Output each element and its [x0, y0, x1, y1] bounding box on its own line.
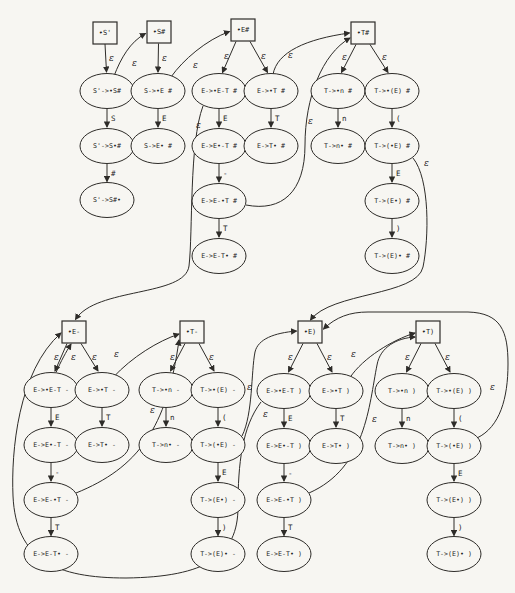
- station-node-st_ep: •E): [298, 321, 322, 343]
- item-label: E->•E-T #: [201, 87, 237, 95]
- item-label: T->n• -: [152, 441, 180, 449]
- epsilon-edge-label: ε: [109, 53, 114, 63]
- edge-i7-st_th: [273, 33, 350, 75]
- epsilon-edge-label: ε: [405, 352, 410, 362]
- item-node-p17: T->(E)• ): [427, 537, 481, 572]
- station-node-st_em: •E-: [62, 321, 86, 343]
- station-label: •S#: [153, 28, 166, 36]
- item-label: T->(•E) ): [436, 442, 472, 450]
- station-node-st_sp: •S': [93, 22, 117, 44]
- symbol-edge-label: T: [340, 414, 345, 423]
- station-label: •T): [422, 328, 435, 336]
- item-node-i2: S'->S•#: [80, 129, 134, 164]
- item-label: S->•E #: [144, 87, 172, 95]
- item-node-m12: T->•n -: [139, 373, 193, 408]
- item-label: E->E•-T ): [266, 442, 302, 450]
- symbol-edge-label: T: [275, 114, 280, 123]
- epsilon-edge-label: ε: [327, 352, 332, 362]
- item-label: E->•E-T -: [33, 386, 69, 394]
- edge-i15-st_ep: [311, 158, 427, 320]
- item-node-m9: E->T• -: [75, 428, 129, 463]
- symbol-edge-label: n: [406, 414, 411, 423]
- edge-p10-st_tp: [309, 337, 415, 493]
- epsilon-edge-label: ε: [351, 349, 356, 359]
- item-node-m6: E->•E-T -: [24, 373, 78, 408]
- item-node-i11: E->E-T• #: [192, 239, 246, 274]
- item-node-p9: E->T• ): [309, 429, 363, 464]
- item-node-m8: E->E•-T -: [24, 428, 78, 463]
- station-node-st_eh: •E#: [231, 19, 255, 41]
- edge-st_sp-i1: [105, 44, 107, 72]
- epsilon-edge-label: ε: [308, 116, 313, 126]
- epsilon-edge-label: ε: [261, 51, 266, 61]
- item-label: E->T• ): [322, 442, 350, 450]
- station-label: •E#: [237, 26, 250, 34]
- item-label: S'->•S#: [93, 87, 121, 95]
- epsilon-edge-label: ε: [288, 50, 293, 60]
- item-label: T->•(E) -: [200, 386, 236, 394]
- item-label: E->•T #: [257, 87, 285, 95]
- item-label: T->n• #: [324, 142, 352, 150]
- symbol-edge-label: n: [342, 114, 347, 123]
- symbol-edge-label: -: [288, 469, 293, 478]
- figure-container: εεεεεεεεεεεεεεS#EE-TTn(E)E-TTn(E)E-TTn(E…: [0, 0, 515, 593]
- symbol-edge-label: (: [396, 114, 401, 123]
- symbol-edge-label: (: [458, 414, 463, 423]
- epsilon-edge-label: ε: [445, 352, 450, 362]
- epsilon-edge-label: ε: [196, 120, 201, 130]
- symbol-edge-label: -: [55, 468, 60, 477]
- item-node-i9: E->T• #: [244, 129, 298, 164]
- item-label: T->(E)• #: [374, 252, 410, 260]
- epsilon-edge-label: ε: [224, 51, 229, 61]
- item-label: S'->S#•: [93, 196, 121, 204]
- item-node-m13: T->•(E) -: [191, 373, 245, 408]
- symbol-edge-label: -: [223, 169, 228, 178]
- item-label: T->n• ): [388, 442, 416, 450]
- item-node-i8: E->E•-T #: [192, 129, 246, 164]
- item-node-m15: T->(•E) -: [191, 428, 245, 463]
- item-label: S->E• #: [144, 142, 172, 150]
- item-label: E->T• #: [257, 142, 285, 150]
- item-label: E->E-T• -: [33, 550, 69, 558]
- station-node-st_tm: •T-: [180, 321, 204, 343]
- item-node-p8: E->E•-T ): [257, 429, 311, 464]
- symbol-edge-label: ): [396, 224, 401, 233]
- station-label: •T-: [186, 328, 199, 336]
- epsilon-edge-label: ε: [54, 352, 59, 362]
- symbol-edge-label: n: [170, 413, 175, 422]
- item-label: T->(E•) -: [200, 496, 236, 504]
- item-node-p13: T->•(E) ): [427, 374, 481, 409]
- item-label: E->E-T• ): [266, 550, 302, 558]
- epsilon-edge-label: ε: [193, 60, 198, 70]
- item-node-i16: T->(E•) #: [365, 184, 419, 219]
- item-label: E->E•-T -: [33, 441, 69, 449]
- station-label: •E-: [68, 328, 81, 336]
- epsilon-edge-label: ε: [490, 382, 495, 392]
- symbol-edge-label: (: [222, 413, 227, 422]
- item-label: E->•T -: [88, 386, 116, 394]
- item-node-i4: S->•E #: [131, 74, 185, 109]
- symbol-edge-label: E: [396, 169, 401, 178]
- item-node-p11: E->E-T• ): [257, 537, 311, 572]
- epsilon-edge-label: ε: [92, 352, 97, 362]
- symbol-edge-label: S: [111, 114, 116, 123]
- item-label: T->•n -: [152, 386, 180, 394]
- item-node-m14: T->n• -: [139, 428, 193, 463]
- item-label: T->(E)• ): [436, 550, 472, 558]
- symbol-edge-label: T: [55, 523, 60, 532]
- epsilon-edge-label: ε: [132, 58, 137, 68]
- item-node-p16: T->(E•) ): [427, 483, 481, 518]
- item-label: T->(•E) #: [374, 142, 410, 150]
- epsilon-edge-label: ε: [247, 382, 252, 392]
- item-label: E->T• -: [88, 441, 116, 449]
- item-node-p10: E->E-•T ): [257, 483, 311, 518]
- station-label: •E): [304, 328, 317, 336]
- item-label: E->E•-T #: [201, 142, 237, 150]
- symbol-edge-label: E: [288, 414, 293, 423]
- epsilon-edge-label: ε: [114, 349, 119, 359]
- item-node-m11: E->E-T• -: [24, 537, 78, 572]
- symbol-edge-label: E: [55, 413, 60, 422]
- item-label: E->E-•T #: [201, 197, 237, 205]
- station-node-st_tp: •T): [416, 321, 440, 343]
- edge-m10-st_tm: [76, 340, 179, 493]
